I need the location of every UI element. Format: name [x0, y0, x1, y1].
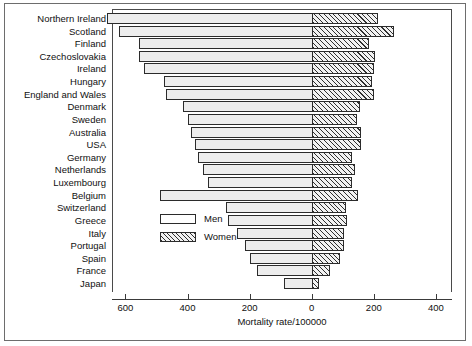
category-label: Northern Ireland: [0, 13, 106, 24]
bar-men: [203, 164, 312, 175]
bar-men: [164, 76, 311, 87]
bar-women: [312, 139, 362, 150]
bar-men: [183, 101, 312, 112]
bar-women: [312, 228, 345, 239]
category-label: Italy: [0, 228, 106, 239]
bar-row: [112, 152, 452, 164]
bar-men: [188, 114, 312, 125]
category-label: Ireland: [0, 63, 106, 74]
bar-row: [112, 253, 452, 265]
x-axis-tick-label: 200: [366, 302, 382, 313]
bar-women: [312, 76, 373, 87]
bar-men: [195, 139, 311, 150]
category-label: England and Wales: [0, 89, 106, 100]
x-axis-tick: [188, 294, 189, 300]
bar-women: [312, 51, 376, 62]
legend-swatch-women-icon: [160, 232, 196, 242]
bar-row: [112, 101, 452, 113]
category-label: Greece: [0, 215, 106, 226]
category-label: Finland: [0, 38, 106, 49]
category-axis-labels: Northern IrelandScotlandFinlandCzechoslo…: [0, 9, 106, 292]
bar-row: [112, 139, 452, 151]
category-label: Netherlands: [0, 164, 106, 175]
x-axis-tick-label: 400: [428, 302, 444, 313]
bar-men: [250, 253, 312, 264]
bar-row: [112, 127, 452, 139]
category-label: Czechoslovakia: [0, 51, 106, 62]
bar-women: [312, 26, 394, 37]
category-label: Australia: [0, 127, 106, 138]
bar-women: [312, 101, 360, 112]
bar-men: [119, 26, 312, 37]
bar-women: [312, 215, 348, 226]
bar-men: [166, 89, 312, 100]
bar-row: [112, 63, 452, 75]
bar-women: [312, 114, 357, 125]
bar-men: [208, 177, 312, 188]
legend-item-men: Men: [160, 212, 280, 230]
bar-men: [139, 38, 311, 49]
bar-men: [198, 152, 311, 163]
bar-women: [312, 240, 345, 251]
x-axis-tick: [250, 294, 251, 300]
x-axis-line: [112, 299, 452, 300]
bar-men: [284, 278, 312, 289]
category-label: Denmark: [0, 101, 106, 112]
bar-men: [144, 63, 312, 74]
category-label: Spain: [0, 253, 106, 264]
bar-row: [112, 76, 452, 88]
legend: Men Women: [160, 212, 280, 248]
bar-men: [257, 265, 311, 276]
bar-women: [312, 278, 320, 289]
bar-row: [112, 13, 452, 25]
x-axis-tick: [312, 294, 313, 300]
bar-women: [312, 265, 331, 276]
bar-women: [312, 127, 362, 138]
bar-men: [191, 127, 312, 138]
category-label: Luxembourg: [0, 177, 106, 188]
legend-label-men: Men: [204, 213, 222, 224]
bar-women: [312, 13, 378, 24]
bar-men: [107, 13, 312, 24]
legend-label-women: Women: [204, 231, 237, 242]
bar-women: [312, 202, 346, 213]
category-label: France: [0, 265, 106, 276]
bar-row: [112, 265, 452, 277]
bar-women: [312, 152, 352, 163]
bar-women: [312, 253, 340, 264]
category-label: Japan: [0, 278, 106, 289]
x-axis-tick: [436, 294, 437, 300]
x-axis-tick-label: 600: [117, 302, 133, 313]
category-label: Sweden: [0, 114, 106, 125]
category-label: Scotland: [0, 26, 106, 37]
bars-group: [112, 9, 452, 292]
x-axis-title: Mortality rate/100000: [112, 316, 452, 327]
bar-row: [112, 38, 452, 50]
category-label: Switzerland: [0, 202, 106, 213]
category-label: Germany: [0, 152, 106, 163]
x-axis-tick-label: 0: [309, 302, 314, 313]
x-axis-tick: [374, 294, 375, 300]
legend-item-women: Women: [160, 230, 280, 248]
chart-container: Northern IrelandScotlandFinlandCzechoslo…: [0, 0, 472, 346]
bar-row: [112, 190, 452, 202]
category-label: Portugal: [0, 240, 106, 251]
category-label: Hungary: [0, 76, 106, 87]
x-axis-tick-label: 400: [180, 302, 196, 313]
bar-row: [112, 114, 452, 126]
x-axis-tick-label: 200: [242, 302, 258, 313]
bar-women: [312, 63, 374, 74]
category-label: Belgium: [0, 190, 106, 201]
x-axis-tick: [125, 294, 126, 300]
category-label: USA: [0, 139, 106, 150]
bar-row: [112, 164, 452, 176]
bar-row: [112, 278, 452, 290]
bar-women: [312, 38, 369, 49]
bar-women: [312, 89, 374, 100]
bar-row: [112, 89, 452, 101]
bar-row: [112, 177, 452, 189]
legend-swatch-men-icon: [160, 214, 196, 224]
bar-men: [139, 51, 311, 62]
bar-row: [112, 51, 452, 63]
bar-men: [160, 190, 312, 201]
